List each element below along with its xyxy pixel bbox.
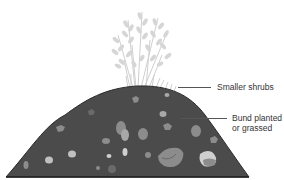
bund-label-line2: or grassed <box>232 123 272 133</box>
bund-diagram: Smaller shrubs Bund planted or grassed <box>0 0 284 180</box>
shrubs-label: Smaller shrubs <box>217 82 274 92</box>
bund-label-line1: Bund planted <box>232 113 282 123</box>
bund-leader-line <box>180 118 227 119</box>
shrubs-leader-line <box>178 87 211 88</box>
